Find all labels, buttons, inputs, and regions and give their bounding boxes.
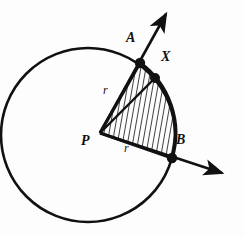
point-dot-B xyxy=(167,153,177,163)
segment-label-PB-radius: r xyxy=(124,142,129,154)
point-label-A: A xyxy=(126,31,135,45)
point-dot-A xyxy=(135,58,145,68)
point-label-P: P xyxy=(81,134,90,148)
geometry-figure: A X B P r r xyxy=(0,0,244,236)
point-label-B: B xyxy=(176,133,185,147)
point-dot-X xyxy=(150,73,160,83)
figure-canvas xyxy=(0,0,244,236)
segment-label-PA-radius: r xyxy=(103,84,108,96)
point-label-X: X xyxy=(161,50,170,64)
